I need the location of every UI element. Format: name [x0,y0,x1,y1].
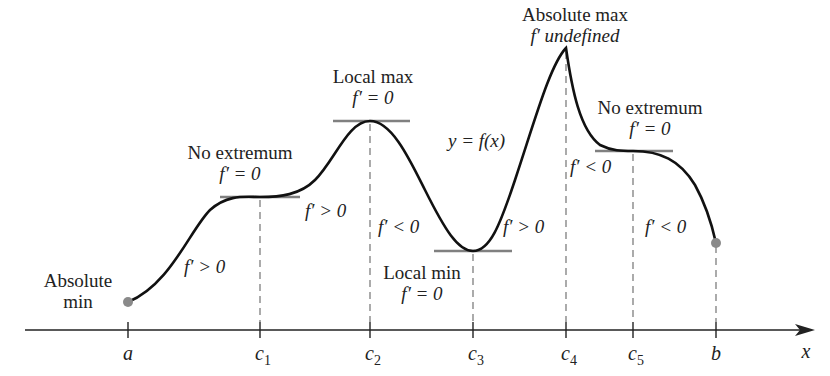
label-no-extremum-2: No extremum f′ = 0 [590,97,710,139]
sign-c1-c2: f′ > 0 [305,200,346,221]
sign-a-c1: f′ > 0 [184,256,225,277]
tick-label-b: b [711,342,721,365]
tick-label-c3: c3 [468,342,484,369]
label-local-max: Local max f′ = 0 [318,66,428,108]
diagram-canvas [0,0,830,376]
sign-c4-c5: f′ < 0 [570,156,611,177]
label-local-min: Local min f′ = 0 [372,262,472,304]
sign-c3-c4: f′ > 0 [503,216,544,237]
label-absolute-min: Absolute min [38,270,118,312]
sign-c5-b: f′ < 0 [645,216,686,237]
tick-label-a: a [123,342,133,365]
label-no-extremum-1: No extremum f′ = 0 [180,142,300,184]
label-curve-equation: y = f(x) [448,130,505,151]
label-absolute-max: Absolute max f′ undefined [505,4,645,46]
tick-label-c5: c5 [628,342,644,369]
tick-label-c1: c1 [255,342,271,369]
tick-label-c2: c2 [365,342,381,369]
endpoint-b-dot [711,238,721,248]
endpoint-a-dot [123,297,133,307]
tick-label-c4: c4 [561,342,577,369]
extrema-diagram: Absolute min No extremum f′ = 0 Local ma… [0,0,830,376]
sign-c2-c3: f′ < 0 [378,216,419,237]
x-axis-label: x [802,340,811,363]
